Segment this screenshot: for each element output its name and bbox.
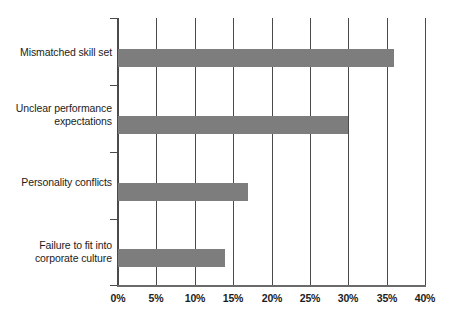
plot-area	[118, 18, 425, 286]
category-label-line: Mismatched skill set	[0, 46, 112, 59]
category-label-line: Failure to fit into	[0, 239, 112, 252]
x-tick-label-40: 40%	[402, 292, 448, 305]
category-label-unclear-performance-expectations: Unclear performance expectations	[0, 102, 112, 127]
category-label-mismatched-skill-set: Mismatched skill set	[0, 46, 112, 59]
category-axis-labels: Mismatched skill set Unclear performance…	[0, 0, 112, 331]
bar-failure-to-fit-into-corporate-culture	[118, 249, 225, 267]
category-label-line: Unclear performance	[0, 102, 112, 115]
category-label-personality-conflicts: Personality conflicts	[0, 176, 112, 189]
y-axis-tick	[110, 152, 118, 153]
bar-unclear-performance-expectations	[118, 116, 348, 134]
y-axis-tick	[110, 18, 118, 19]
gridline-40	[425, 18, 426, 286]
bar-mismatched-skill-set	[118, 49, 394, 67]
category-label-line: expectations	[0, 115, 112, 128]
category-label-line: corporate culture	[0, 252, 112, 265]
y-axis-tick	[110, 219, 118, 220]
y-axis-tick	[110, 85, 118, 86]
x-axis-line	[117, 285, 426, 287]
category-label-failure-to-fit-into-corporate-culture: Failure to fit into corporate culture	[0, 239, 112, 264]
bar-personality-conflicts	[118, 183, 248, 201]
bar-chart: Mismatched skill set Unclear performance…	[0, 0, 453, 331]
category-label-line: Personality conflicts	[0, 176, 112, 189]
